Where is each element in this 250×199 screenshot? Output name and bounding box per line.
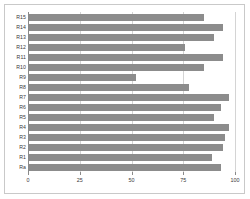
y-tick-label-R9: R9 (2, 74, 26, 81)
y-tick-label-R5: R5 (2, 114, 26, 121)
x-tick-label-75: 75 (180, 176, 186, 184)
bar-R15 (28, 14, 204, 21)
y-axis-tick-labels: R15R14R13R12R11R10R9R8R7R6R5R4R3R2R1Ra (0, 12, 26, 172)
y-tick-label-R13: R13 (2, 34, 26, 41)
y-tick-label-R11: R11 (2, 54, 26, 61)
bar-R10 (28, 64, 204, 71)
bar-R13 (28, 34, 214, 41)
bar-R8 (28, 84, 189, 91)
bar-chart-figure: R15R14R13R12R11R10R9R8R7R6R5R4R3R2R1Ra 0… (0, 0, 250, 199)
bar-R12 (28, 44, 185, 51)
plot-area (28, 12, 235, 172)
bar-R4 (28, 124, 229, 131)
x-tick-label-0: 0 (27, 176, 30, 184)
y-tick-label-R3: R3 (2, 134, 26, 141)
y-tick-label-R15: R15 (2, 14, 26, 21)
y-tick-label-R8: R8 (2, 84, 26, 91)
y-tick-label-R6: R6 (2, 104, 26, 111)
bar-R1 (28, 154, 212, 161)
y-axis-line (28, 12, 29, 172)
x-tick-label-50: 50 (129, 176, 135, 184)
bar-R2 (28, 144, 223, 151)
y-tick-label-R4: R4 (2, 124, 26, 131)
x-tick-0 (28, 172, 29, 175)
y-tick-label-R14: R14 (2, 24, 26, 31)
y-tick-label-R1: R1 (2, 154, 26, 161)
y-tick-label-R10: R10 (2, 64, 26, 71)
y-tick-label-R7: R7 (2, 94, 26, 101)
bar-Ra (28, 164, 221, 171)
bar-R6 (28, 104, 221, 111)
x-tick-75 (183, 172, 184, 175)
gridline-100 (235, 12, 236, 172)
x-tick-label-25: 25 (77, 176, 83, 184)
bar-R5 (28, 114, 214, 121)
bar-R9 (28, 74, 136, 81)
x-tick-label-100: 100 (231, 176, 240, 184)
y-tick-label-Ra: Ra (2, 164, 26, 171)
bar-R7 (28, 94, 229, 101)
y-tick-label-R2: R2 (2, 144, 26, 151)
y-tick-label-R12: R12 (2, 44, 26, 51)
bar-R14 (28, 24, 223, 31)
x-tick-25 (80, 172, 81, 175)
bar-R11 (28, 54, 223, 61)
x-tick-50 (132, 172, 133, 175)
x-tick-100 (235, 172, 236, 175)
bar-R3 (28, 134, 225, 141)
